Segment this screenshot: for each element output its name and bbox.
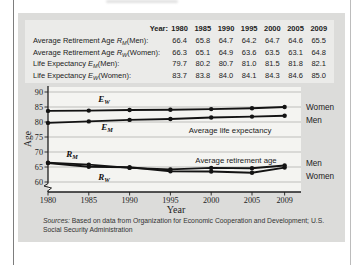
data-point-marker (46, 109, 50, 113)
chart: 9085807570656019801985199019952000200520… (0, 0, 356, 265)
data-point-marker (46, 161, 50, 165)
y-tick-label: 90 (35, 88, 43, 97)
y-tick-label: 85 (35, 103, 43, 112)
data-point-marker (282, 105, 286, 109)
data-point-marker (87, 162, 91, 166)
data-point-marker (127, 118, 131, 122)
y-tick-label: 70 (35, 148, 43, 157)
x-tick-label: 2000 (203, 196, 219, 205)
x-tick-label: 1985 (81, 196, 97, 205)
x-tick-label: 2005 (244, 196, 260, 205)
plot-area (48, 87, 301, 192)
data-point-marker (250, 171, 254, 175)
data-point-marker (209, 107, 213, 111)
data-point-marker (282, 114, 286, 118)
x-axis-title: Year (167, 204, 186, 215)
annotation-label: Average retirement age (195, 156, 276, 165)
data-point-marker (87, 119, 91, 123)
series-right-label: Men (306, 116, 322, 125)
data-point-marker (168, 117, 172, 121)
y-axis-title: Age (23, 131, 33, 147)
data-point-marker (209, 166, 213, 170)
x-tick-label: 1990 (121, 196, 137, 205)
data-point-marker (250, 166, 254, 170)
x-tick-label: 2009 (276, 196, 292, 205)
data-point-marker (250, 114, 254, 118)
data-point-marker (127, 166, 131, 170)
y-tick-label: 80 (35, 118, 43, 127)
y-tick-label: 60 (35, 178, 43, 187)
y-tick-label: 65 (35, 163, 43, 172)
y-tick-label: 75 (35, 133, 43, 142)
data-point-marker (250, 106, 254, 110)
data-point-marker (127, 108, 131, 112)
series-right-label: Women (306, 103, 335, 112)
data-point-marker (87, 108, 91, 112)
data-point-marker (282, 163, 286, 167)
series-right-label: Women (306, 172, 335, 181)
data-point-marker (168, 108, 172, 112)
data-point-marker (46, 121, 50, 125)
x-tick-label: 1980 (40, 196, 56, 205)
data-point-marker (209, 115, 213, 119)
data-point-marker (168, 167, 172, 171)
annotation-label: Average life expectancy (189, 126, 272, 135)
series-right-label: Men (306, 159, 322, 168)
